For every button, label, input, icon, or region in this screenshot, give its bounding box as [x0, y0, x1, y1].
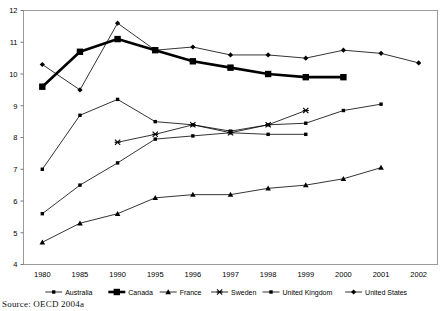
- series-line: [42, 133, 305, 214]
- legend-item-sweden[interactable]: Sweden: [211, 289, 256, 296]
- series-line: [118, 111, 306, 143]
- x-axis-tick-label: 1985: [72, 270, 89, 279]
- series-sweden: [115, 108, 309, 145]
- data-point-marker: [217, 289, 223, 294]
- y-axis-tick-label: 5: [13, 229, 17, 238]
- data-point-marker: [116, 161, 119, 164]
- data-point-marker: [78, 114, 81, 117]
- x-axis-tick-label: 1995: [147, 270, 164, 279]
- chart-canvas: 4567891011121980198519901995199619971998…: [0, 0, 445, 311]
- data-point-marker: [154, 137, 157, 140]
- data-point-marker: [229, 131, 232, 134]
- series-united-kingdom: [41, 131, 308, 215]
- legend-item-australia[interactable]: Australia: [45, 289, 92, 296]
- data-point-marker: [41, 212, 44, 215]
- data-point-marker: [41, 168, 44, 171]
- data-point-marker: [341, 48, 346, 53]
- data-point-marker: [303, 56, 308, 61]
- data-point-marker: [77, 49, 83, 55]
- x-axis-tick-label: 1996: [185, 270, 202, 279]
- data-point-marker: [378, 165, 384, 170]
- x-axis-tick-label: 2001: [373, 270, 390, 279]
- data-point-marker: [115, 211, 121, 216]
- data-point-marker: [190, 122, 196, 127]
- data-point-marker: [379, 102, 382, 105]
- series-line: [42, 168, 381, 243]
- line-chart: 4567891011121980198519901995199619971998…: [0, 0, 445, 311]
- y-axis-tick-label: 8: [13, 133, 17, 142]
- data-point-marker: [115, 140, 121, 145]
- y-axis-tick-label: 7: [13, 165, 17, 174]
- legend-item-label: Australia: [65, 289, 92, 296]
- series-united-states: [40, 21, 422, 93]
- x-axis-tick-label: 2000: [335, 270, 352, 279]
- legend-item-united-states[interactable]: United States: [345, 289, 408, 296]
- legend-item-label: Sweden: [231, 289, 256, 296]
- legend-item-canada[interactable]: Canada: [108, 289, 153, 296]
- data-point-marker: [265, 122, 271, 127]
- y-axis-tick-label: 6: [13, 197, 17, 206]
- data-point-marker: [39, 84, 45, 90]
- series-canada: [39, 36, 346, 90]
- data-point-marker: [114, 289, 120, 295]
- legend-item-label: United States: [365, 289, 408, 296]
- data-point-marker: [416, 60, 421, 65]
- data-point-marker: [116, 98, 119, 101]
- data-point-marker: [266, 133, 269, 136]
- data-point-marker: [304, 122, 307, 125]
- data-point-marker: [115, 21, 120, 26]
- data-point-marker: [40, 62, 45, 67]
- data-point-marker: [351, 289, 356, 294]
- data-point-marker: [78, 183, 81, 186]
- legend-item-france[interactable]: France: [160, 289, 202, 296]
- data-point-marker: [340, 74, 346, 80]
- data-point-marker: [227, 64, 233, 70]
- legend-item-united-kingdom[interactable]: United Kingdom: [263, 289, 333, 297]
- data-point-marker: [191, 134, 194, 137]
- data-point-marker: [152, 132, 158, 137]
- data-point-marker: [304, 133, 307, 136]
- data-point-marker: [269, 290, 272, 293]
- legend-item-label: Canada: [128, 289, 153, 296]
- x-axis-tick-label: 1997: [222, 270, 239, 279]
- y-axis-tick-label: 11: [10, 38, 18, 47]
- x-axis-tick-label: 2002: [410, 270, 427, 279]
- data-point-marker: [52, 290, 55, 293]
- data-point-marker: [265, 71, 271, 77]
- y-axis-tick-label: 10: [9, 70, 17, 79]
- x-axis-tick-label: 1980: [34, 270, 51, 279]
- legend-item-label: France: [180, 289, 202, 296]
- data-point-marker: [154, 120, 157, 123]
- data-point-marker: [77, 87, 82, 92]
- data-point-marker: [114, 36, 120, 42]
- data-point-marker: [190, 58, 196, 64]
- series-france: [40, 165, 384, 245]
- data-point-marker: [190, 44, 195, 49]
- data-point-marker: [228, 52, 233, 57]
- x-axis-tick-label: 1998: [260, 270, 277, 279]
- data-point-marker: [303, 108, 309, 113]
- data-point-marker: [266, 52, 271, 57]
- y-axis-tick-label: 9: [13, 102, 17, 111]
- legend-item-label: United Kingdom: [283, 289, 333, 297]
- x-axis-tick-label: 1999: [297, 270, 314, 279]
- y-axis-tick-label: 12: [9, 6, 17, 15]
- data-point-marker: [40, 239, 46, 244]
- data-point-marker: [342, 109, 345, 112]
- data-point-marker: [378, 51, 383, 56]
- x-axis-tick-label: 1990: [109, 270, 126, 279]
- data-point-marker: [303, 74, 309, 80]
- source-note: Source: OECD 2004a: [2, 299, 84, 309]
- y-axis-tick-label: 4: [13, 260, 17, 269]
